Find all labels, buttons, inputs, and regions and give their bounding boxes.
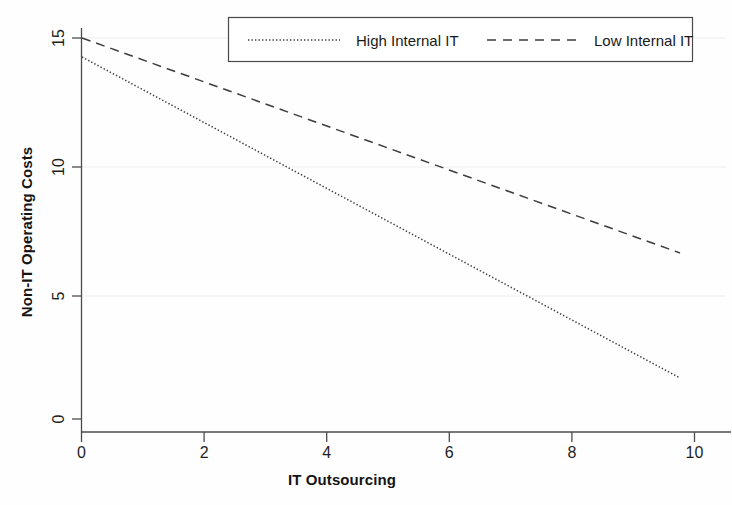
series-line-high-internal-it xyxy=(82,57,680,378)
legend-label-high-internal-it: High Internal IT xyxy=(356,32,459,49)
chart-figure: 15 10 5 0 Non-IT Operating Costs 0 2 4 6… xyxy=(0,0,732,505)
x-tick-label-0: 0 xyxy=(77,444,86,461)
x-axis-title: IT Outsourcing xyxy=(288,471,396,488)
y-tick-label-0: 0 xyxy=(50,414,67,423)
chart-legend: High Internal IT Low Internal IT xyxy=(229,18,694,62)
axes xyxy=(82,28,732,432)
x-tick-label-4: 4 xyxy=(322,444,331,461)
x-tick-label-6: 6 xyxy=(445,444,454,461)
y-axis-ticks xyxy=(72,38,82,419)
x-tick-label-8: 8 xyxy=(567,444,576,461)
x-tick-label-2: 2 xyxy=(200,444,209,461)
x-tick-label-10: 10 xyxy=(686,444,704,461)
line-chart: 15 10 5 0 Non-IT Operating Costs 0 2 4 6… xyxy=(0,0,732,505)
gridlines xyxy=(82,38,726,296)
series-line-low-internal-it xyxy=(82,38,680,253)
y-axis-tick-labels: 15 10 5 0 xyxy=(50,29,67,423)
y-tick-label-10: 10 xyxy=(50,158,67,176)
y-axis-title: Non-IT Operating Costs xyxy=(18,147,35,318)
legend-label-low-internal-it: Low Internal IT xyxy=(594,32,693,49)
y-tick-label-5: 5 xyxy=(50,291,67,300)
x-axis-tick-labels: 0 2 4 6 8 10 xyxy=(77,444,703,461)
x-axis-ticks xyxy=(82,432,695,442)
y-tick-label-15: 15 xyxy=(50,29,67,47)
